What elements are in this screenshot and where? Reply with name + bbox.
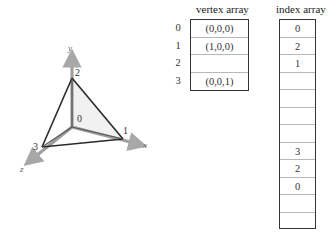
vertex-cell-2 — [191, 55, 248, 73]
y-axis-label: y — [67, 43, 72, 53]
vertex-array-table: (0,0,0) (1,0,0) (0,0,1) — [190, 19, 249, 91]
index-cell-5 — [280, 108, 315, 126]
x-axis-label: x — [142, 140, 147, 150]
vertex-cell-3: (0,0,1) — [191, 73, 248, 91]
row-index-2: 2 — [173, 54, 183, 72]
index-cell-4 — [280, 90, 315, 108]
z-axis-label: z — [19, 164, 24, 174]
index-cell-2: 1 — [280, 55, 315, 73]
index-array-title: index array — [276, 3, 326, 15]
vertex-label-2: 2 — [75, 67, 80, 78]
index-cell-11 — [280, 213, 315, 231]
index-cell-7: 3 — [280, 143, 315, 161]
index-cell-9: 0 — [280, 178, 315, 196]
row-index-3: 3 — [173, 72, 183, 90]
index-cell-3 — [280, 73, 315, 91]
row-index-0: 0 — [173, 19, 183, 37]
vertex-cell-0: (0,0,0) — [191, 20, 248, 38]
row-index-1: 1 — [173, 37, 183, 55]
index-cell-6 — [280, 125, 315, 143]
tetrahedron-diagram: 0 1 2 3 y x z — [0, 0, 170, 235]
index-cell-10 — [280, 195, 315, 213]
vertex-label-0: 0 — [77, 113, 82, 124]
mesh-data-structure-figure: 0 1 2 3 y x z vertex array 0 1 2 3 (0,0,… — [0, 0, 336, 235]
index-cell-8: 2 — [280, 160, 315, 178]
index-cell-0: 0 — [280, 20, 315, 38]
vertex-cell-1: (1,0,0) — [191, 38, 248, 56]
vertex-label-3: 3 — [33, 141, 38, 152]
vertex-label-1: 1 — [123, 125, 128, 136]
index-array-table: 0 2 1 3 2 0 — [279, 19, 316, 229]
index-cell-1: 2 — [280, 38, 315, 56]
vertex-array-title: vertex array — [196, 3, 249, 15]
